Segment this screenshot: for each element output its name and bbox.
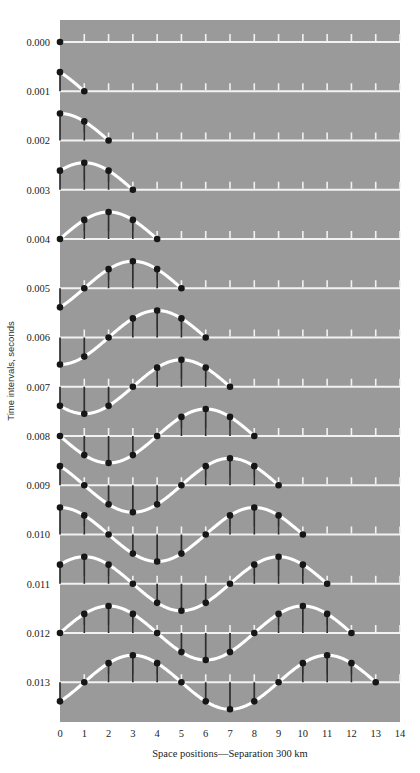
- data-point-marker: [154, 266, 161, 273]
- data-point-marker: [178, 356, 185, 363]
- y-tick-label: 0.001: [26, 86, 50, 97]
- data-point-marker: [130, 217, 137, 224]
- data-point-marker: [130, 383, 137, 390]
- data-point-marker: [130, 186, 137, 193]
- data-point-marker: [57, 561, 64, 568]
- x-tick-label: 0: [57, 728, 62, 739]
- data-point-marker: [154, 660, 161, 667]
- y-tick-label: 0.009: [26, 480, 50, 491]
- data-point-marker: [81, 553, 88, 560]
- data-point-marker: [105, 167, 112, 174]
- data-point-marker: [202, 600, 209, 607]
- data-point-marker: [105, 334, 112, 341]
- data-point-marker: [154, 307, 161, 314]
- data-point-marker: [202, 364, 209, 371]
- data-point-marker: [202, 334, 209, 341]
- data-point-marker: [275, 482, 282, 489]
- data-point-marker: [130, 550, 137, 557]
- data-point-marker: [300, 531, 307, 538]
- data-point-marker: [57, 630, 64, 637]
- data-point-marker: [81, 679, 88, 686]
- data-point-marker: [81, 353, 88, 360]
- data-point-marker: [178, 550, 185, 557]
- data-point-marker: [227, 414, 234, 421]
- x-tick-label: 5: [179, 728, 184, 739]
- y-tick-label: 0.003: [26, 185, 50, 196]
- data-point-marker: [154, 558, 161, 565]
- data-point-marker: [105, 603, 112, 610]
- x-tick-label: 3: [130, 728, 135, 739]
- data-point-marker: [251, 463, 258, 470]
- data-point-marker: [81, 611, 88, 618]
- data-point-marker: [154, 501, 161, 508]
- y-tick-label: 0.008: [26, 431, 50, 442]
- data-point-marker: [154, 236, 161, 243]
- x-tick-label: 2: [106, 728, 111, 739]
- data-point-marker: [105, 209, 112, 216]
- y-tick-label: 0.007: [26, 382, 50, 393]
- y-tick-label: 0.011: [27, 579, 50, 590]
- data-point-marker: [227, 706, 234, 713]
- data-point-marker: [81, 482, 88, 489]
- y-tick-label: 0.005: [26, 283, 50, 294]
- data-point-marker: [178, 285, 185, 292]
- data-point-marker: [57, 167, 64, 174]
- data-point-marker: [178, 315, 185, 322]
- data-point-marker: [57, 69, 64, 76]
- data-point-marker: [300, 660, 307, 667]
- x-tick-label: 12: [346, 728, 357, 739]
- data-point-marker: [57, 236, 64, 243]
- x-tick-label: 6: [203, 728, 208, 739]
- x-tick-label: 10: [298, 728, 309, 739]
- data-point-marker: [251, 630, 258, 637]
- data-point-marker: [300, 561, 307, 568]
- x-tick-label-group: 01234567891011121314: [57, 728, 406, 739]
- y-tick-label: 0.002: [26, 135, 50, 146]
- data-point-marker: [81, 159, 88, 166]
- data-point-marker: [57, 361, 64, 368]
- data-point-marker: [178, 649, 185, 656]
- data-point-marker: [275, 553, 282, 560]
- data-point-marker: [105, 460, 112, 467]
- data-point-marker: [202, 657, 209, 664]
- x-tick-label: 11: [322, 728, 332, 739]
- data-point-marker: [251, 433, 258, 440]
- data-point-marker: [57, 698, 64, 705]
- data-point-marker: [105, 403, 112, 410]
- data-point-marker: [202, 531, 209, 538]
- data-point-marker: [372, 679, 379, 686]
- data-point-marker: [178, 482, 185, 489]
- data-point-marker: [324, 611, 331, 618]
- y-tick-label: 0.004: [26, 234, 50, 245]
- data-point-marker: [178, 414, 185, 421]
- data-point-marker: [251, 561, 258, 568]
- data-point-marker: [227, 455, 234, 462]
- data-point-marker: [251, 698, 258, 705]
- data-point-marker: [130, 509, 137, 516]
- data-point-marker: [275, 512, 282, 519]
- y-axis-title: Time intervals, seconds: [5, 321, 16, 421]
- data-point-marker: [227, 512, 234, 519]
- data-point-marker: [202, 463, 209, 470]
- data-point-marker: [105, 660, 112, 667]
- data-point-marker: [105, 266, 112, 273]
- data-point-marker: [105, 531, 112, 538]
- plot-area-background: [60, 20, 400, 722]
- data-point-marker: [57, 39, 64, 46]
- data-point-marker: [57, 403, 64, 410]
- data-point-marker: [324, 652, 331, 659]
- x-tick-label: 14: [395, 728, 406, 739]
- data-point-marker: [130, 652, 137, 659]
- data-point-marker: [105, 561, 112, 568]
- data-point-marker: [130, 315, 137, 322]
- x-tick-label: 1: [82, 728, 87, 739]
- data-point-marker: [348, 660, 355, 667]
- y-tick-label: 0.012: [26, 628, 50, 639]
- data-point-marker: [105, 137, 112, 144]
- data-point-marker: [178, 607, 185, 614]
- data-point-marker: [227, 383, 234, 390]
- data-point-marker: [81, 512, 88, 519]
- data-point-marker: [81, 410, 88, 417]
- data-point-marker: [154, 364, 161, 371]
- y-tick-label: 0.013: [26, 677, 50, 688]
